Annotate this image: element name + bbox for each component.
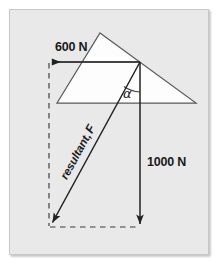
horizontal-force-label: 600 N [55, 40, 88, 54]
figure-root: 600 N 1000 N α resultant, F [0, 0, 224, 268]
vertical-force-label: 1000 N [147, 155, 186, 169]
force-diagram-svg: 600 N 1000 N α resultant, F [0, 0, 224, 268]
alpha-angle-label: α [123, 86, 132, 101]
